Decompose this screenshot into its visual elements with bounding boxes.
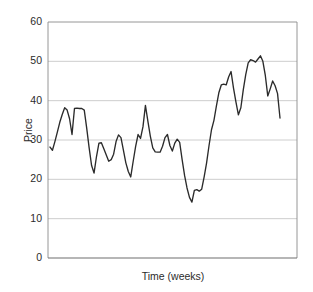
plot-area [0,0,313,292]
price-line-chart: Price Time (weeks) 0102030405060 [0,0,313,292]
price-series-line [50,56,280,202]
